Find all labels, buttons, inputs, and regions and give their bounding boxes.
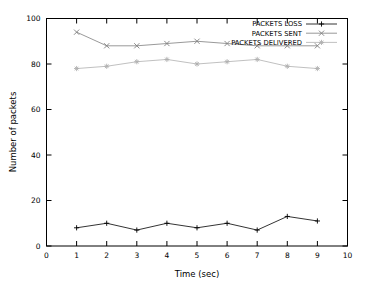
- x-tick-label: 8: [285, 251, 290, 260]
- y-tick-label: 40: [31, 151, 41, 160]
- x-tick-label: 10: [343, 251, 353, 260]
- x-tick-label: 9: [315, 251, 320, 260]
- y-tick-label: 0: [36, 242, 41, 251]
- x-tick-label: 5: [195, 251, 200, 260]
- y-tick-label: 100: [26, 14, 41, 23]
- x-tick-label: 7: [255, 251, 260, 260]
- y-axis-title: Number of packets: [8, 91, 18, 172]
- x-tick-label: 3: [134, 251, 139, 260]
- legend-label-2: PACKETS SENT: [252, 30, 303, 38]
- x-tick-label: 0: [44, 251, 49, 260]
- legend-label-1: PACKETS LOSS: [252, 20, 302, 28]
- x-axis-title: Time (sec): [174, 269, 219, 279]
- y-tick-label: 60: [31, 105, 41, 114]
- y-tick-label: 80: [31, 60, 41, 69]
- x-tick-label: 6: [225, 251, 230, 260]
- legend-label-3: PACKETS DELIVERED: [231, 39, 302, 47]
- chart-container: 020406080100 012345678910 Number of pack…: [0, 0, 368, 285]
- line-chart: 020406080100 012345678910 Number of pack…: [0, 0, 368, 285]
- x-tick-label: 2: [104, 251, 109, 260]
- x-tick-label: 4: [165, 251, 170, 260]
- y-tick-label: 20: [31, 196, 41, 205]
- x-tick-label: 1: [74, 251, 79, 260]
